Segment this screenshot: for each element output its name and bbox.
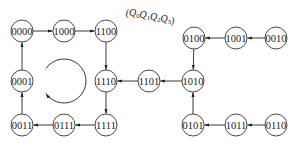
state-nodes: 0000100011000100100100100001111011011010…: [11, 20, 287, 136]
state-node-label: 0010: [266, 33, 287, 44]
state-node-0110: 0110: [265, 114, 287, 136]
state-node-label: 1111: [96, 120, 116, 131]
state-node-1001: 1001: [225, 27, 247, 49]
state-node-0101: 0101: [182, 114, 204, 136]
state-node-label: 0110: [266, 120, 287, 131]
state-node-label: 1101: [139, 76, 160, 87]
state-node-1000: 1000: [53, 20, 75, 42]
state-node-1010: 1010: [182, 70, 204, 92]
state-node-1101: 1101: [138, 70, 160, 92]
state-node-label: 0111: [54, 120, 74, 131]
state-node-0011: 0011: [11, 114, 33, 136]
state-node-1100: 1100: [95, 20, 117, 42]
state-node-label: 0000: [12, 26, 33, 37]
state-node-label: 0100: [184, 33, 205, 44]
state-node-0001: 0001: [11, 70, 33, 92]
state-node-1111: 1111: [95, 114, 117, 136]
state-node-0000: 0000: [11, 20, 33, 42]
state-diagram: (Q0Q1Q2Q3) 00001000110001001001001000011…: [0, 0, 296, 147]
state-node-0010: 0010: [265, 27, 287, 49]
state-node-label: 0101: [183, 120, 204, 131]
cycle-arrow: [46, 59, 86, 103]
state-node-label: 1100: [96, 26, 117, 37]
state-node-label: 1010: [183, 76, 204, 87]
state-node-label: 1110: [96, 76, 116, 87]
state-node-label: 0001: [12, 76, 33, 87]
cycle-indicator-icon: [46, 59, 86, 103]
state-node-0111: 0111: [53, 114, 75, 136]
state-node-1110: 1110: [95, 70, 117, 92]
state-node-label: 1011: [226, 120, 247, 131]
state-node-1011: 1011: [225, 114, 247, 136]
state-node-label: 1000: [54, 26, 75, 37]
state-variable-title: (Q0Q1Q2Q3): [126, 7, 175, 27]
state-node-label: 1001: [226, 33, 247, 44]
state-node-label: 0011: [12, 120, 33, 131]
state-node-0100: 0100: [183, 27, 205, 49]
